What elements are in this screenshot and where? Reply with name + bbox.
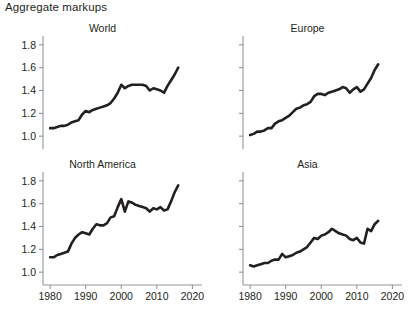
chart-asia: 19801990200020102020 [205, 158, 410, 330]
x-tick-label: 1990 [274, 290, 298, 302]
panel-world: World 1.01.21.41.61.8 [0, 22, 205, 162]
x-tick-label: 1990 [74, 290, 98, 302]
y-tick-label: 1.4 [21, 220, 36, 232]
aggregate-markups-figure: Aggregate markups World 1.01.21.41.61.8 … [0, 0, 410, 330]
x-tick-label: 2000 [310, 290, 334, 302]
x-tick-label: 2020 [381, 290, 405, 302]
data-series-line [250, 221, 378, 267]
x-tick-label: 1980 [38, 290, 62, 302]
panel-title-north-america: North America [0, 158, 205, 170]
y-tick-label: 1.8 [21, 39, 36, 51]
panel-europe: Europe [205, 22, 410, 162]
y-tick-label: 1.8 [21, 175, 36, 187]
figure-title: Aggregate markups [5, 1, 107, 13]
y-tick-label: 1.6 [21, 197, 36, 209]
x-tick-label: 1980 [238, 290, 262, 302]
chart-europe [205, 22, 410, 162]
x-tick-label: 2010 [145, 290, 169, 302]
panel-title-world: World [0, 22, 205, 34]
chart-north-america: 1.01.21.41.61.819801990200020102020 [0, 158, 205, 330]
panel-north-america: North America 1.01.21.41.61.819801990200… [0, 158, 205, 330]
data-series-line [50, 185, 178, 257]
panel-title-europe: Europe [205, 22, 410, 34]
data-series-line [50, 68, 178, 128]
x-tick-label: 2000 [110, 290, 134, 302]
y-tick-label: 1.0 [21, 266, 36, 278]
chart-world: 1.01.21.41.61.8 [0, 22, 205, 162]
x-tick-label: 2010 [345, 290, 369, 302]
x-tick-label: 2020 [181, 290, 205, 302]
y-tick-label: 1.0 [21, 130, 36, 142]
y-tick-label: 1.6 [21, 61, 36, 73]
y-tick-label: 1.2 [21, 243, 36, 255]
y-tick-label: 1.4 [21, 84, 36, 96]
panel-title-asia: Asia [205, 158, 410, 170]
y-tick-label: 1.2 [21, 107, 36, 119]
data-series-line [250, 64, 378, 135]
panel-asia: Asia 19801990200020102020 [205, 158, 410, 330]
